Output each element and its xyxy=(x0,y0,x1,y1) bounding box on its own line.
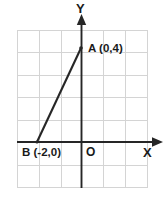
coordinate-plane-canvas xyxy=(0,0,166,197)
point-a-label: A (0,4) xyxy=(88,42,123,54)
x-axis-label: X xyxy=(143,146,152,159)
origin-label: O xyxy=(86,146,95,158)
coordinate-plane-figure: Y X O A (0,4) B (-2,0) xyxy=(0,0,166,197)
segment-b-to-a xyxy=(37,48,81,142)
point-b-marker xyxy=(35,140,38,143)
y-axis-label: Y xyxy=(76,2,85,15)
point-a-marker xyxy=(79,46,83,50)
y-axis xyxy=(77,14,86,188)
point-b-label: B (-2,0) xyxy=(22,146,61,158)
grid-lines xyxy=(17,30,148,188)
